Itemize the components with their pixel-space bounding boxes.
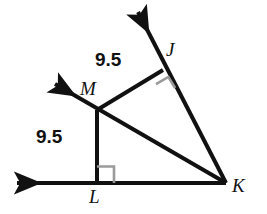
- vertex-label-j: J: [166, 40, 174, 59]
- measure-label-ml: 9.5: [36, 127, 62, 146]
- figure-strokes: [17, 12, 226, 183]
- vertex-label-k: K: [232, 176, 245, 195]
- geometry-diagram: J M L K 9.5 9.5: [0, 0, 267, 214]
- vertex-label-l: L: [89, 187, 100, 206]
- right-angle-at-L-icon: [97, 167, 114, 184]
- measure-label-mj: 9.5: [95, 50, 121, 69]
- vertex-label-m: M: [80, 79, 96, 98]
- geometry-canvas: [0, 0, 267, 214]
- segment-mj: [97, 70, 163, 110]
